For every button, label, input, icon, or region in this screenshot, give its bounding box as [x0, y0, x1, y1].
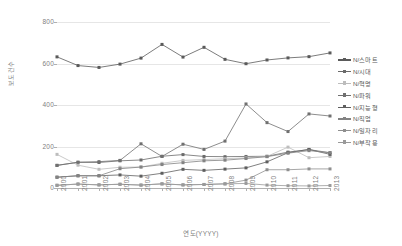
legend-item-3[interactable]: N/혁명: [338, 78, 402, 90]
x-tick-label: 2006: [186, 176, 193, 191]
legend-item-2[interactable]: N/시대: [338, 66, 402, 78]
legend-label: N/직업: [353, 114, 372, 123]
data-point: [140, 142, 143, 145]
legend-item-4[interactable]: N/파워: [338, 89, 402, 101]
legend-marker-icon: [338, 127, 351, 134]
data-point: [77, 164, 80, 167]
data-point: [98, 174, 101, 177]
series-line: [57, 147, 330, 169]
x-tick-mark: [78, 188, 79, 191]
x-tick-label: 2010: [270, 176, 277, 191]
data-point: [98, 160, 101, 163]
legend-item-5[interactable]: N/지능형: [338, 101, 402, 113]
x-tick-mark: [162, 188, 163, 191]
data-point: [308, 149, 311, 152]
x-tick-label: 2012: [312, 176, 319, 191]
data-point: [161, 182, 164, 185]
data-point: [266, 184, 269, 187]
legend-marker-icon: [338, 139, 351, 146]
data-point: [182, 56, 185, 59]
data-point: [308, 167, 311, 170]
data-point: [245, 62, 248, 65]
data-point: [245, 102, 248, 105]
data-point: [308, 184, 311, 187]
data-point: [98, 183, 101, 186]
y-tick-label: 400: [14, 101, 54, 108]
data-point: [140, 57, 143, 60]
x-tick-label: 2013: [333, 176, 340, 191]
data-point: [266, 155, 269, 158]
x-tick-label: 2004: [144, 176, 151, 191]
series-line: [57, 104, 330, 165]
data-point: [56, 184, 59, 187]
data-point: [161, 155, 164, 158]
data-point: [56, 55, 59, 58]
legend-label: N/스마트: [353, 55, 378, 64]
data-point: [224, 168, 227, 171]
data-point: [56, 164, 59, 167]
series-2: [56, 148, 332, 167]
data-point: [119, 159, 122, 162]
data-point: [329, 51, 332, 54]
x-tick-mark: [225, 188, 226, 191]
data-point: [287, 56, 290, 59]
legend-label: N/혁명: [353, 79, 372, 88]
legend-item-1[interactable]: N/스마트: [338, 54, 402, 66]
x-tick-label: 2007: [207, 176, 214, 191]
data-point: [224, 140, 227, 143]
data-point: [245, 182, 248, 185]
legend-marker-icon: [338, 68, 351, 75]
data-point: [245, 157, 248, 160]
x-axis-line: [57, 188, 330, 189]
legend-marker-icon: [338, 80, 351, 87]
legend-item-8[interactable]: N/부작용: [338, 137, 402, 149]
x-tick-label: 2009: [249, 176, 256, 191]
legend-marker-icon: [338, 115, 351, 122]
legend-item-7[interactable]: N/일자리: [338, 125, 402, 137]
data-point: [329, 184, 332, 187]
x-tick-label: 2001: [81, 176, 88, 191]
x-tick-mark: [204, 188, 205, 191]
data-point: [203, 183, 206, 186]
series-3: [56, 146, 332, 171]
data-point: [203, 169, 206, 172]
x-tick-mark: [246, 188, 247, 191]
x-tick-mark: [99, 188, 100, 191]
data-point: [266, 168, 269, 171]
data-point: [119, 173, 122, 176]
data-point: [308, 112, 311, 115]
legend-label: N/파워: [353, 91, 372, 100]
data-point: [287, 130, 290, 133]
data-point: [77, 183, 80, 186]
legend: N/스마트N/시대N/혁명N/파워N/지능형N/직업N/일자리N/부작용: [338, 54, 402, 148]
data-point: [308, 55, 311, 58]
x-tick-mark: [267, 188, 268, 191]
x-tick-mark: [141, 188, 142, 191]
data-point: [329, 115, 332, 118]
data-point: [287, 152, 290, 155]
data-point: [182, 161, 185, 164]
data-point: [203, 155, 206, 158]
data-point: [182, 153, 185, 156]
data-point: [245, 179, 248, 182]
data-point: [224, 182, 227, 185]
x-tick-label: 2002: [102, 176, 109, 191]
y-tick-label: 600: [14, 60, 54, 67]
x-tick-mark: [57, 188, 58, 191]
data-point: [203, 159, 206, 162]
legend-marker-icon: [338, 92, 351, 99]
data-point: [308, 156, 311, 159]
data-point: [77, 174, 80, 177]
data-point: [203, 148, 206, 151]
legend-item-6[interactable]: N/직업: [338, 113, 402, 125]
data-point: [182, 183, 185, 186]
data-point: [56, 176, 59, 179]
data-point: [77, 64, 80, 67]
x-tick-label: 2005: [165, 176, 172, 191]
series-layer: [57, 22, 330, 188]
data-point: [161, 163, 164, 166]
series-6: [56, 149, 332, 179]
data-point: [140, 175, 143, 178]
data-point: [287, 184, 290, 187]
data-point: [119, 167, 122, 170]
